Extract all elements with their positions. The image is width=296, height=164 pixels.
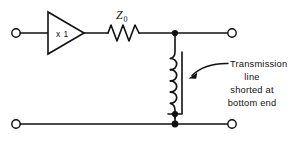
input-bottom-terminal[interactable]: [12, 120, 20, 128]
resistor-label-z: Z: [116, 8, 123, 22]
input-top-terminal[interactable]: [12, 29, 20, 37]
wire-node-to-coil-top: [171, 33, 176, 59]
output-top-terminal[interactable]: [228, 29, 236, 37]
coil-turn-3: [171, 81, 177, 92]
callout-arrow-curve: [192, 63, 228, 75]
coil-turn-2: [171, 70, 177, 81]
annotation-line-3: shorted at: [230, 85, 274, 95]
resistor-label-subscript: 0: [124, 15, 128, 24]
bottom-junction-dot: [172, 121, 179, 128]
callout-arrow-head: [189, 73, 198, 79]
annotation-line-4: bottom end: [228, 98, 277, 108]
annotation-line-2: line: [244, 72, 259, 82]
annotation-line-1: Transmission: [230, 59, 287, 69]
amplifier-gain-label: x 1: [56, 29, 69, 39]
output-bottom-terminal[interactable]: [228, 120, 236, 128]
circuit-schematic-canvas: x 1 Z 0: [0, 0, 296, 164]
resistor-zigzag[interactable]: [108, 25, 139, 41]
coil-turn-4: [171, 92, 177, 103]
coil-turn-1: [171, 58, 177, 69]
circuit-diagram-figure: x 1 Z 0: [0, 0, 296, 164]
